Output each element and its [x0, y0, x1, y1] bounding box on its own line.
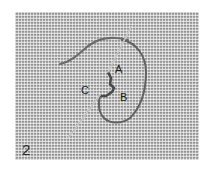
- stitched-thread: [100, 72, 114, 96]
- thread-tail: [60, 38, 128, 64]
- label-a: A: [115, 64, 122, 75]
- stitch-illustration: [0, 0, 211, 173]
- label-c: C: [81, 85, 89, 96]
- thread-loop: [99, 40, 146, 123]
- label-b: B: [120, 92, 127, 103]
- needle-lower-edge: [68, 95, 100, 138]
- figure-number: 2: [22, 142, 30, 157]
